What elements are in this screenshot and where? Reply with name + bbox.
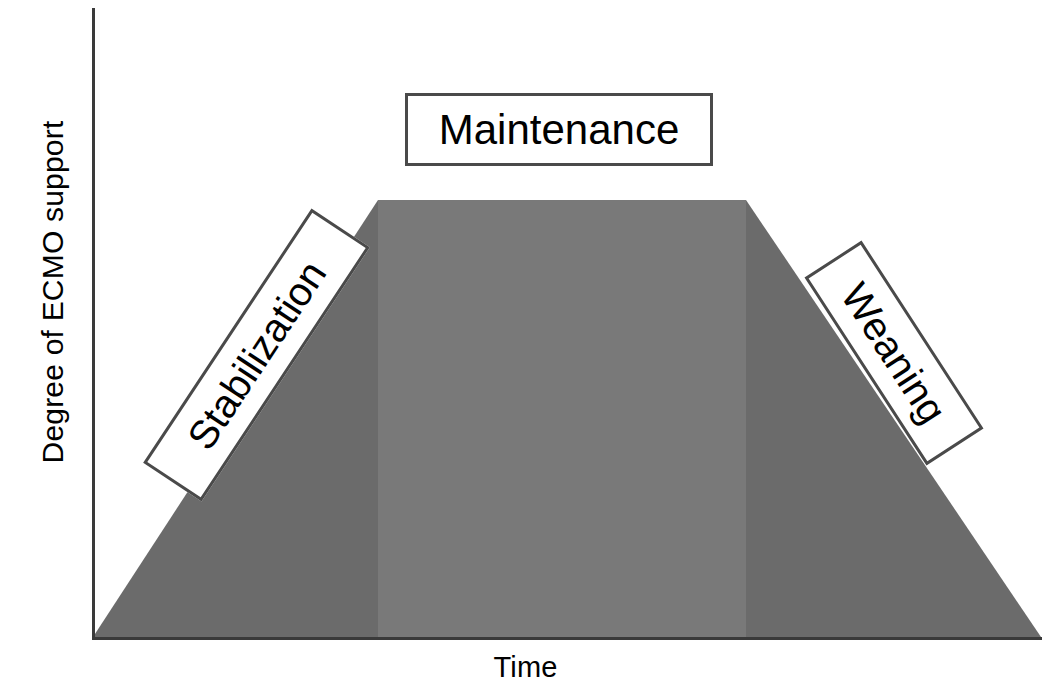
y-axis-line (92, 8, 95, 640)
phase-area-maintenance (378, 200, 746, 637)
x-axis-title: Time (0, 653, 1051, 682)
phase-area-weaning (746, 200, 1041, 637)
phase-label-maintenance-text: Maintenance (439, 109, 680, 151)
x-axis-line (92, 637, 1042, 640)
chart-canvas: Degree of ECMO support Time Stabilizatio… (0, 0, 1051, 697)
y-axis-title: Degree of ECMO support (38, 0, 78, 612)
phase-label-maintenance: Maintenance (405, 93, 713, 166)
